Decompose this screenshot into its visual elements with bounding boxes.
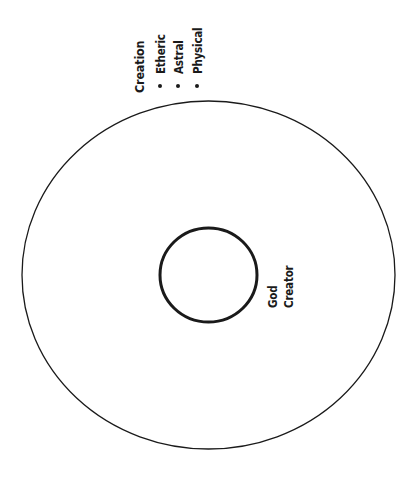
physical-label: Physical	[192, 28, 204, 74]
inner-circle-god	[160, 228, 257, 322]
creation-label: Creation	[134, 41, 146, 93]
etheric-label: Etheric	[155, 34, 167, 74]
god-label: God	[267, 286, 279, 308]
astral-label: Astral	[173, 40, 185, 74]
creator-label: Creator	[283, 266, 295, 308]
bullet-etheric	[158, 84, 162, 88]
concentric-circles-diagram	[0, 0, 418, 477]
bullet-astral	[176, 84, 180, 88]
bullet-physical	[195, 84, 199, 88]
outer-circle-creation	[22, 101, 395, 449]
